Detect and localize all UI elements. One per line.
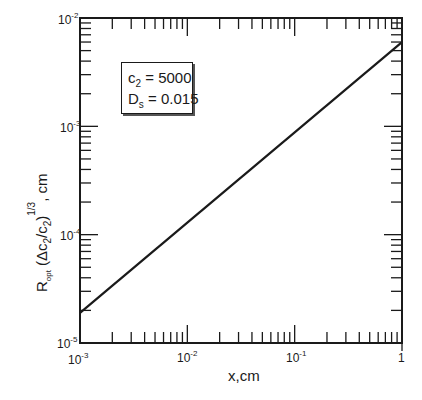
x-axis-title: x,cm — [228, 367, 260, 384]
y-axis-title: Ropt(Δc2/c2)1/3, cm — [26, 173, 53, 292]
chart: 10-3 10-2 10-1 1 10-5 10-4 10-3 10-2 x,c… — [0, 0, 422, 400]
y-tick-label: 10-2 — [58, 11, 79, 27]
y-tick-label: 10-3 — [60, 119, 81, 135]
c2-parameter: c2 = 5000 — [128, 69, 192, 89]
x-tick-label: 10-1 — [286, 349, 307, 365]
parameter-box: c2 = 5000 Ds = 0.015 — [121, 62, 193, 114]
y-tick-label: 10-5 — [57, 335, 78, 351]
x-tick-label: 10-2 — [177, 349, 198, 365]
y-tick-label: 10-4 — [60, 227, 81, 243]
x-tick-label: 10-3 — [68, 351, 89, 367]
x-tick-label: 1 — [398, 351, 405, 365]
ds-parameter: Ds = 0.015 — [128, 90, 198, 110]
